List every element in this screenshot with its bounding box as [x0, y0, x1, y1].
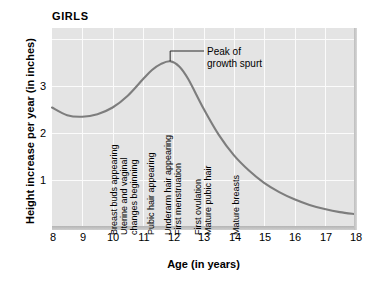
y-tick-1: 1 — [26, 174, 46, 186]
plot-right-shadow — [354, 28, 357, 230]
x-tick-16: 16 — [285, 231, 305, 243]
event-label-uterine: Uterine and vaginal — [119, 157, 129, 235]
chart-title: GIRLS — [52, 10, 89, 22]
x-tick-8: 8 — [43, 231, 63, 243]
y-tick-3: 3 — [26, 80, 46, 92]
event-label-ovulation: First ovulation — [193, 179, 203, 235]
event-label-pubic-hair: Pubic hair appearing — [146, 152, 156, 235]
callout-line-1: Peak of — [207, 46, 241, 58]
event-label-changes: changes beginning — [129, 159, 139, 235]
x-tick-15: 15 — [255, 231, 275, 243]
event-label-mature-pubic: Mature pubic hair — [203, 165, 213, 235]
growth-velocity-chart: GIRLS Height increase per year (in inche… — [0, 0, 382, 281]
x-tick-9: 9 — [73, 231, 93, 243]
event-label-breast-buds: Breast buds appearing — [109, 144, 119, 235]
x-tick-18: 18 — [346, 231, 366, 243]
callout-line-2: growth spurt — [207, 58, 262, 70]
x-tick-17: 17 — [316, 231, 336, 243]
y-tick-2: 2 — [26, 127, 46, 139]
callout-leader-line — [170, 51, 204, 61]
event-label-underarm-hair: Underarm hair appearing — [163, 135, 173, 235]
event-label-mature-breasts: Mature breasts — [231, 175, 241, 235]
x-axis-label: Age (in years) — [52, 258, 355, 270]
event-label-menstruation: First menstruation — [173, 163, 183, 235]
